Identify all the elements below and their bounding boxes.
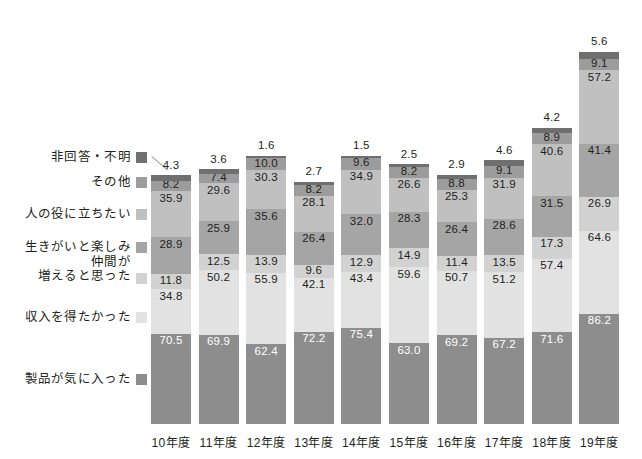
segment-value-label: 35.9 [159, 193, 182, 205]
bar-column-12年度: 62.455.913.935.630.310.01.6 [246, 156, 286, 424]
bar-segment [484, 160, 524, 166]
segment-value-label: 17.3 [540, 238, 563, 250]
bar-segment [579, 314, 619, 424]
segment-value-label: 50.2 [207, 272, 230, 284]
segment-value-label: 57.2 [588, 72, 611, 84]
bar-segment [437, 175, 477, 179]
stacked-bar-chart: 非回答・不明その他人の役に立ちたい生きがいと楽しみ仲間が増えると思った収入を得た… [0, 0, 642, 459]
bar-column-14年度: 75.443.412.932.034.99.61.5 [341, 156, 381, 424]
segment-value-label: 40.6 [540, 146, 563, 158]
segment-value-label: 34.9 [350, 171, 373, 183]
segment-value-label: 62.4 [255, 346, 278, 358]
segment-value-label: 26.4 [445, 224, 468, 236]
bar-segment [246, 156, 286, 158]
bar-segment [437, 335, 477, 424]
bar-segment [341, 156, 381, 158]
segment-value-label: 11.8 [160, 275, 182, 287]
stacked-bar: 63.059.614.928.326.68.22.5 [389, 164, 429, 424]
segment-value-label: 9.6 [353, 157, 370, 169]
segment-value-label: 55.9 [255, 274, 278, 286]
segment-value-label: 8.2 [306, 184, 323, 196]
segment-value-label: 8.2 [401, 166, 418, 178]
bar-segment [294, 182, 334, 185]
segment-value-label: 5.6 [591, 36, 608, 48]
segment-value-label: 32.0 [350, 216, 373, 228]
segment-value-label: 26.9 [588, 198, 611, 210]
x-axis-label-14年度: 14年度 [336, 433, 386, 450]
bar-column-11年度: 69.950.212.525.929.67.43.6 [199, 169, 239, 424]
segment-value-label: 69.2 [445, 337, 468, 349]
bar-segment [532, 332, 572, 424]
segment-value-label: 71.6 [540, 334, 563, 346]
segment-value-label: 70.5 [159, 335, 182, 347]
stacked-bar: 69.950.212.525.929.67.43.6 [199, 169, 239, 424]
segment-value-label: 42.1 [302, 279, 325, 291]
segment-value-label: 12.5 [207, 256, 230, 268]
stacked-bar: 71.657.417.331.540.68.94.2 [532, 128, 572, 424]
segment-value-label: 9.1 [496, 165, 513, 177]
segment-value-label: 69.9 [207, 336, 230, 348]
x-axis-label-18年度: 18年度 [527, 433, 577, 450]
bar-column-18年度: 71.657.417.331.540.68.94.2 [532, 128, 572, 424]
stacked-bar: 69.250.711.426.425.38.82.9 [437, 175, 477, 424]
segment-value-label: 4.2 [544, 112, 561, 124]
x-axis-label-15年度: 15年度 [384, 433, 434, 450]
segment-value-label: 2.7 [306, 166, 323, 178]
bar-column-13年度: 72.242.19.626.428.18.22.7 [294, 182, 334, 424]
bar-segment [151, 175, 191, 181]
segment-value-label: 12.9 [350, 257, 373, 269]
segment-value-label: 8.2 [163, 179, 180, 191]
segment-value-label: 2.9 [448, 159, 465, 171]
bar-segment [199, 335, 239, 424]
segment-value-label: 9.1 [591, 58, 608, 70]
segment-value-label: 25.3 [445, 191, 468, 203]
segment-value-label: 30.3 [255, 172, 278, 184]
segment-value-label: 1.6 [258, 140, 275, 152]
bar-column-15年度: 63.059.614.928.326.68.22.5 [389, 164, 429, 424]
stacked-bar: 86.264.626.941.457.29.15.6 [579, 52, 619, 424]
segment-value-label: 10.0 [255, 158, 278, 170]
segment-value-label: 34.8 [159, 291, 182, 303]
segment-value-label: 14.9 [397, 250, 420, 262]
bar-column-16年度: 69.250.711.426.425.38.82.9 [437, 175, 477, 424]
bar-segment [341, 328, 381, 425]
bar-segment [532, 128, 572, 133]
x-axis-label-17年度: 17年度 [479, 433, 529, 450]
segment-value-label: 31.5 [540, 198, 563, 210]
bar-segment [389, 164, 429, 167]
segment-value-label: 13.5 [493, 257, 516, 269]
segment-value-label: 28.9 [159, 239, 182, 251]
segment-value-label: 51.2 [493, 274, 516, 286]
segment-value-label: 11.4 [445, 257, 467, 269]
segment-value-label: 41.4 [588, 145, 611, 157]
bar-segment [199, 169, 239, 174]
segment-value-label: 31.9 [493, 179, 516, 191]
segment-value-label: 43.4 [350, 273, 373, 285]
bar-segment [579, 52, 619, 59]
x-axis-label-19年度: 19年度 [574, 433, 624, 450]
segment-value-label: 2.5 [401, 149, 418, 161]
bar-column-10年度: 70.534.811.828.935.98.24.3 [151, 175, 191, 424]
stacked-bar: 62.455.913.935.630.310.01.6 [246, 156, 286, 424]
segment-value-label: 59.6 [397, 269, 420, 281]
segment-value-label: 50.7 [445, 272, 468, 284]
bar-segment [151, 334, 191, 424]
segment-value-label: 64.6 [588, 232, 611, 244]
segment-value-label: 63.0 [397, 345, 420, 357]
bar-column-17年度: 67.251.213.528.631.99.14.6 [484, 160, 524, 424]
segment-value-label: 67.2 [493, 339, 516, 351]
bar-segment [294, 332, 334, 424]
segment-value-label: 28.1 [302, 197, 325, 209]
segment-value-label: 57.4 [540, 260, 563, 272]
segment-value-label: 25.9 [207, 223, 230, 235]
x-axis-label-16年度: 16年度 [432, 433, 482, 450]
bar-column-19年度: 86.264.626.941.457.29.15.6 [579, 52, 619, 424]
segment-value-label: 4.6 [496, 145, 513, 157]
stacked-bar: 72.242.19.626.428.18.22.7 [294, 182, 334, 424]
segment-value-label: 86.2 [588, 315, 611, 327]
segment-value-label: 26.4 [302, 233, 325, 245]
segment-value-label: 26.6 [397, 179, 420, 191]
segment-value-label: 13.9 [255, 256, 278, 268]
stacked-bar: 70.534.811.828.935.98.24.3 [151, 175, 191, 424]
segment-value-label: 8.8 [448, 178, 465, 190]
